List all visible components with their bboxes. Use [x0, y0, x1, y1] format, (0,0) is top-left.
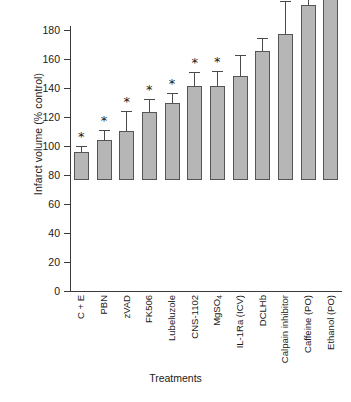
bar[interactable]: [142, 112, 157, 180]
x-axis-category-label-text: DCLHb: [258, 295, 268, 326]
error-bar: [285, 2, 286, 34]
y-axis-tick-label: 60: [14, 199, 60, 209]
y-axis-tick-label-text: 40: [16, 228, 60, 238]
x-axis-category-label: Ethanol (PO): [323, 295, 338, 367]
x-axis-title: Treatments: [0, 372, 351, 384]
x-axis-category-label: Caffeine (PO): [301, 295, 316, 367]
significance-marker: *: [74, 132, 89, 142]
x-axis-category-label-text: PBN: [99, 295, 109, 315]
x-axis-category-label-text: Lubeluzole: [167, 295, 177, 341]
bar[interactable]: [278, 34, 293, 180]
bar[interactable]: [323, 0, 338, 180]
error-bar: [149, 100, 150, 112]
x-axis-category-label: CNS-1102: [187, 295, 202, 367]
y-axis-tick-label-text: 100: [16, 141, 60, 151]
x-axis-category-label: IL-1Ra (ICV): [233, 295, 248, 367]
significance-marker: *: [142, 85, 157, 95]
y-axis-tick-label-text: 180: [16, 25, 60, 35]
bar[interactable]: [255, 51, 270, 180]
error-bar: [194, 73, 195, 86]
y-axis-tick-label: 80: [14, 170, 60, 180]
x-axis-category-label: Calpain inhibitor: [278, 295, 293, 367]
bar[interactable]: [233, 76, 248, 180]
error-bar-cap: [167, 93, 178, 94]
x-axis-category-label-text: IL-1Ra (ICV): [235, 295, 245, 348]
error-bar-cap: [144, 99, 155, 100]
error-bar-cap: [99, 130, 110, 131]
error-bar-cap: [189, 72, 200, 73]
error-bar-cap: [76, 146, 87, 147]
bar[interactable]: [301, 5, 316, 180]
bar[interactable]: [119, 131, 134, 180]
error-bar: [217, 72, 218, 87]
x-axis-category-label-text: Caffeine (PO): [303, 295, 313, 353]
y-axis-tick-label: 160: [14, 54, 60, 64]
x-axis-category-label: zVAD: [119, 295, 134, 367]
error-bar: [81, 147, 82, 153]
x-axis-category-label-text: zVAD: [122, 295, 132, 319]
significance-marker: *: [97, 116, 112, 126]
error-bar: [308, 0, 309, 5]
x-axis-category-label: FK506: [142, 295, 157, 367]
y-axis-tick-label-text: 80: [16, 170, 60, 180]
bar[interactable]: [210, 86, 225, 180]
error-bar: [240, 56, 241, 76]
error-bar-cap: [235, 55, 246, 56]
y-axis-tick-label-text: 60: [16, 199, 60, 209]
bar-series: ********: [70, 0, 342, 291]
x-axis-category-label-text: CNS-1102: [190, 295, 200, 339]
significance-marker: *: [119, 97, 134, 107]
bar[interactable]: [165, 103, 180, 180]
significance-marker: *: [165, 79, 180, 89]
y-axis-tick-label: 140: [14, 83, 60, 93]
significance-marker: *: [187, 58, 202, 68]
x-axis-category-labels: C + EPBNzVADFK506LubeluzoleCNS-1102MgSO4…: [70, 291, 342, 371]
bar-chart-figure: Infarct volume (% control) 0204060801001…: [0, 0, 351, 402]
x-axis-category-label-text: C + E: [76, 295, 86, 319]
y-axis-tick-label-text: 160: [16, 54, 60, 64]
y-axis-tick-label-text: 120: [16, 112, 60, 122]
y-axis-tick-label: 20: [14, 257, 60, 267]
error-bar: [262, 39, 263, 51]
error-bar-cap: [121, 111, 132, 112]
x-axis-category-label-text: FK506: [144, 295, 154, 323]
y-axis-tick-label-text: 0: [16, 286, 60, 296]
error-bar: [172, 94, 173, 103]
x-axis-category-label-text: MgSO4: [212, 295, 223, 326]
x-axis-category-label: C + E: [74, 295, 89, 367]
y-axis-tick-label: 0: [14, 286, 60, 296]
x-axis-category-label-text: Calpain inhibitor: [280, 295, 290, 363]
error-bar-cap: [257, 38, 268, 39]
x-axis-category-label: PBN: [97, 295, 112, 367]
bar[interactable]: [187, 86, 202, 180]
y-axis-tick-label: 180: [14, 25, 60, 35]
significance-marker: *: [210, 57, 225, 67]
error-bar-cap: [212, 71, 223, 72]
x-axis-category-label: DCLHb: [255, 295, 270, 367]
bar[interactable]: [97, 140, 112, 180]
x-axis-category-label: Lubeluzole: [165, 295, 180, 367]
y-axis-tick-label: 40: [14, 228, 60, 238]
error-bar: [104, 131, 105, 140]
x-axis-category-label-text: Ethanol (PO): [326, 295, 336, 350]
bar[interactable]: [74, 152, 89, 180]
y-axis-tick-label: 120: [14, 112, 60, 122]
error-bar: [126, 112, 127, 131]
y-axis-tick-label-text: 140: [16, 83, 60, 93]
y-axis-tick-label-text: 20: [16, 257, 60, 267]
y-axis-tick-label: 100: [14, 141, 60, 151]
error-bar-cap: [280, 1, 291, 2]
x-axis-category-label: MgSO4: [210, 295, 225, 367]
